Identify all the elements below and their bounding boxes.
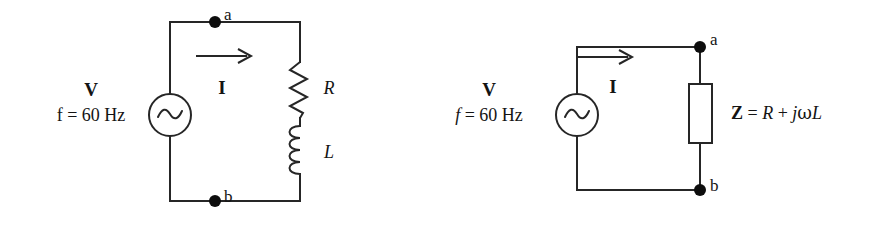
circuit-figure: a b V f = 60 Hz I R L a b V f = 60 Hz I …	[0, 0, 869, 230]
right-frequency-equals: =	[460, 105, 479, 125]
right-node-dot-b	[694, 184, 706, 196]
right-source-frequency-label: f = 60 Hz	[455, 106, 523, 124]
left-current-label: I	[218, 78, 225, 97]
impedance-plus: +	[773, 103, 792, 123]
left-source-frequency-label: f = 60 Hz	[57, 106, 126, 124]
right-node-label-b: b	[710, 177, 719, 194]
right-frequency-value: 60 Hz	[479, 105, 523, 125]
impedance-box-icon	[689, 84, 712, 143]
inductor-label: L	[324, 143, 334, 161]
impedance-label: Z = R + jωL	[731, 104, 822, 122]
impedance-inductance-term: L	[812, 103, 822, 123]
impedance-omega-symbol: ω	[797, 102, 812, 123]
left-node-dot-a	[209, 16, 221, 28]
right-source-voltage-label: V	[482, 80, 496, 99]
impedance-resistance-term: R	[762, 103, 773, 123]
left-node-label-a: a	[224, 6, 232, 23]
resistor-icon	[290, 62, 307, 118]
inductor-icon	[290, 126, 301, 176]
impedance-symbol: Z	[731, 103, 743, 123]
impedance-equals: =	[743, 103, 762, 123]
right-current-arrow-icon	[578, 50, 632, 64]
right-ac-source-icon	[556, 94, 598, 136]
left-current-arrow-icon	[196, 49, 251, 63]
left-source-voltage-label: V	[84, 80, 98, 99]
left-node-dot-b	[209, 195, 221, 207]
right-node-label-a: a	[710, 31, 718, 48]
left-node-label-b: b	[224, 188, 233, 205]
resistor-label: R	[324, 79, 335, 97]
right-current-label: I	[609, 77, 616, 96]
right-node-dot-a	[694, 41, 706, 53]
left-ac-source-icon	[149, 94, 191, 136]
